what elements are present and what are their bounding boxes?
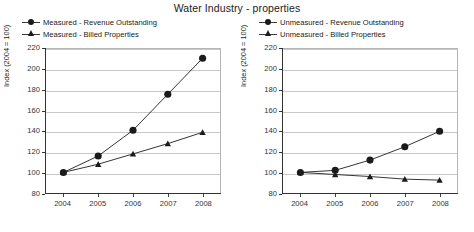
x-axis-tick-label: 2006 bbox=[350, 199, 390, 208]
data-point-circle bbox=[129, 127, 136, 134]
legend-marker-circle-icon bbox=[22, 16, 40, 28]
y-axis-tick-label: 80 bbox=[14, 190, 40, 198]
x-axis-tick-mark bbox=[168, 194, 169, 197]
y-axis-tick-label: 140 bbox=[14, 127, 40, 135]
y-axis-tick-label: 220 bbox=[251, 44, 277, 52]
legend-item: Unmeasured - Revenue Outstanding bbox=[259, 16, 474, 28]
legend-item: Unmeasured - Billed Properties bbox=[259, 28, 474, 40]
plot-area-measured: Index (2004 = 100) 801001201401601802002… bbox=[0, 43, 237, 232]
y-axis-tick-label: 160 bbox=[14, 107, 40, 115]
x-axis-tick-label: 2007 bbox=[385, 199, 425, 208]
x-axis-tick-label: 2008 bbox=[183, 199, 223, 208]
x-axis-tick-mark bbox=[440, 194, 441, 197]
x-axis-tick-label: 2006 bbox=[113, 199, 153, 208]
chart-panel-unmeasured: Unmeasured - Revenue Outstanding Unmeasu… bbox=[237, 16, 474, 232]
x-axis-tick-mark bbox=[370, 194, 371, 197]
y-axis-tick-mark bbox=[279, 194, 282, 195]
y-axis-tick-label: 120 bbox=[251, 148, 277, 156]
x-axis-tick-mark bbox=[300, 194, 301, 197]
y-axis-tick-label: 180 bbox=[14, 86, 40, 94]
y-axis-tick-label: 220 bbox=[14, 44, 40, 52]
legend-marker-triangle-icon bbox=[22, 28, 40, 40]
series-line bbox=[300, 131, 439, 172]
legend-label: Unmeasured - Billed Properties bbox=[280, 30, 386, 39]
x-axis-tick-mark bbox=[405, 194, 406, 197]
x-axis-tick-mark bbox=[63, 194, 64, 197]
data-point-circle bbox=[199, 55, 206, 62]
x-axis-tick-mark bbox=[133, 194, 134, 197]
y-axis-tick-label: 120 bbox=[14, 148, 40, 156]
legend-marker-circle-icon bbox=[259, 16, 277, 28]
y-axis-tick-mark bbox=[42, 194, 45, 195]
y-axis-tick-label: 180 bbox=[251, 86, 277, 94]
y-axis-tick-label: 100 bbox=[251, 169, 277, 177]
y-axis-tick-label: 160 bbox=[251, 107, 277, 115]
data-point-circle bbox=[164, 91, 171, 98]
y-axis-tick-label: 200 bbox=[14, 65, 40, 73]
legend-item: Measured - Revenue Outstanding bbox=[22, 16, 237, 28]
x-axis-tick-label: 2005 bbox=[315, 199, 355, 208]
y-axis-tick-label: 100 bbox=[14, 169, 40, 177]
x-axis-tick-mark bbox=[335, 194, 336, 197]
legend-label: Unmeasured - Revenue Outstanding bbox=[280, 18, 404, 27]
chart-panel-measured: Measured - Revenue Outstanding Measured … bbox=[0, 16, 237, 232]
data-point-circle bbox=[436, 128, 443, 135]
legend-label: Measured - Revenue Outstanding bbox=[43, 18, 157, 27]
plot-area-unmeasured: Index (2004 = 100) 801001201401601802002… bbox=[237, 43, 474, 232]
x-axis-tick-label: 2004 bbox=[43, 199, 83, 208]
x-axis-tick-mark bbox=[98, 194, 99, 197]
legend-unmeasured: Unmeasured - Revenue Outstanding Unmeasu… bbox=[259, 16, 474, 40]
y-axis-tick-label: 140 bbox=[251, 127, 277, 135]
x-axis-tick-label: 2004 bbox=[280, 199, 320, 208]
y-axis-tick-label: 80 bbox=[251, 190, 277, 198]
data-point-triangle bbox=[165, 140, 171, 146]
page-title: Water Industry - properties bbox=[0, 2, 474, 14]
legend-marker-triangle-icon bbox=[259, 28, 277, 40]
y-axis-label: Index (2004 = 100) bbox=[2, 25, 11, 87]
y-axis-label: Index (2004 = 100) bbox=[239, 25, 248, 87]
legend-label: Measured - Billed Properties bbox=[43, 30, 139, 39]
series-layer bbox=[46, 49, 220, 193]
x-axis-tick-mark bbox=[203, 194, 204, 197]
series-layer bbox=[283, 49, 457, 193]
plot-frame bbox=[282, 48, 458, 194]
data-point-triangle bbox=[199, 129, 205, 135]
data-point-circle bbox=[95, 152, 102, 159]
x-axis-tick-label: 2005 bbox=[78, 199, 118, 208]
legend-measured: Measured - Revenue Outstanding Measured … bbox=[22, 16, 237, 40]
data-point-circle bbox=[366, 157, 373, 164]
x-axis-tick-label: 2007 bbox=[148, 199, 188, 208]
data-point-circle bbox=[401, 143, 408, 150]
x-axis-tick-label: 2008 bbox=[420, 199, 460, 208]
plot-frame bbox=[45, 48, 221, 194]
y-axis-tick-label: 200 bbox=[251, 65, 277, 73]
legend-item: Measured - Billed Properties bbox=[22, 28, 237, 40]
